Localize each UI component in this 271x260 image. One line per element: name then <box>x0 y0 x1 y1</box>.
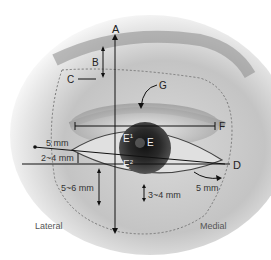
dot-lateral <box>33 145 37 149</box>
eye-illustration: A B C G F D E E1 E2 5 mm 2~4 mm 5~6 mm 3… <box>0 0 271 260</box>
eye-diagram: A B C G F D E E1 E2 5 mm 2~4 mm 5~6 mm 3… <box>0 0 271 260</box>
measure-label-lower-lateral: 5~6 mm <box>61 183 94 193</box>
label-c: C <box>67 74 74 85</box>
measure-label-lateral-upper: 5 mm <box>46 138 69 148</box>
iris-highlight <box>135 138 145 148</box>
measure-label-lateral-gap: 2~4 mm <box>41 153 74 163</box>
label-g: G <box>159 80 167 91</box>
side-label-lateral: Lateral <box>35 221 63 231</box>
label-d: D <box>233 159 241 171</box>
label-b: B <box>92 57 99 68</box>
measure-label-medial: 5 mm <box>196 183 219 193</box>
label-a: A <box>112 23 120 35</box>
label-f: F <box>219 121 225 132</box>
label-e: E <box>147 137 154 148</box>
measure-label-lower-center: 3~4 mm <box>148 190 181 200</box>
side-label-medial: Medial <box>200 221 227 231</box>
